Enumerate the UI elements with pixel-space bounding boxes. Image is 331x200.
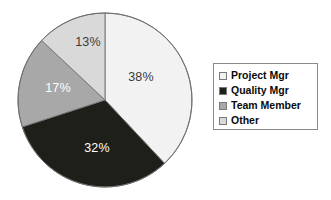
legend-label-other: Other [231, 115, 259, 126]
legend-label-team-member: Team Member [231, 100, 301, 111]
legend-swatch-icon-quality-mgr [219, 87, 227, 95]
legend-item-team-member[interactable]: Team Member [219, 98, 312, 113]
legend-swatch-icon-project-mgr [219, 72, 227, 80]
chart-legend: Project Mgr Quality Mgr Team Member Othe… [213, 63, 318, 130]
legend-swatch-icon-team-member [219, 102, 227, 110]
legend-swatch-icon-other [219, 117, 227, 125]
legend-item-project-mgr[interactable]: Project Mgr [219, 68, 312, 83]
legend-item-other[interactable]: Other [219, 113, 312, 128]
pie-slice-value-label: 13% [75, 35, 101, 49]
pie-chart-figure: 38%32%17%13% Project Mgr Quality Mgr Tea… [0, 0, 331, 200]
pie-slice-value-label: 32% [84, 141, 110, 155]
pie-slice-value-label: 17% [45, 81, 71, 95]
legend-label-quality-mgr: Quality Mgr [231, 85, 289, 96]
legend-item-quality-mgr[interactable]: Quality Mgr [219, 83, 312, 98]
pie-slice-value-label: 38% [128, 70, 154, 84]
legend-label-project-mgr: Project Mgr [231, 70, 289, 81]
